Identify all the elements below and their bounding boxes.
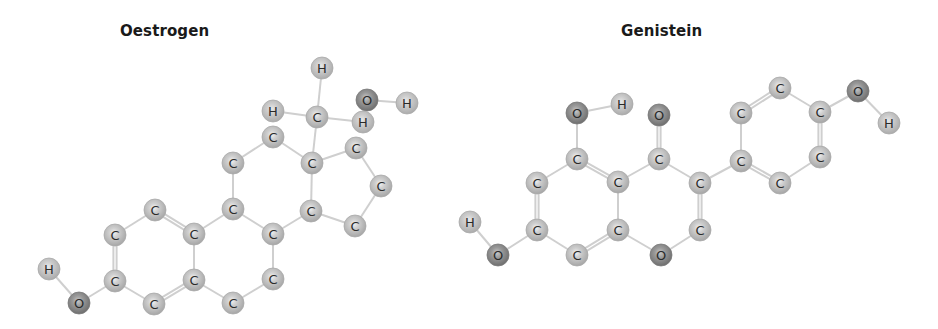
atom-symbol: O — [654, 108, 664, 123]
atom-symbol: H — [465, 215, 475, 230]
atom-symbol: C — [775, 81, 784, 96]
atom-symbol: C — [376, 179, 385, 194]
carbon-atom: C — [104, 270, 126, 292]
carbon-atom: C — [607, 219, 629, 241]
atom-symbol: H — [402, 96, 412, 111]
carbon-atom: C — [144, 199, 166, 221]
hydrogen-atom: H — [459, 211, 481, 233]
oxygen-atom: O — [356, 89, 378, 111]
carbon-atom: C — [648, 148, 670, 170]
atom-symbol: C — [532, 223, 541, 238]
atom-symbol: O — [572, 106, 582, 121]
oxygen-atom: O — [847, 80, 869, 102]
carbon-atom: C — [183, 223, 205, 245]
atom-symbol: O — [656, 248, 666, 263]
atom-symbol: C — [613, 175, 622, 190]
atom-symbol: H — [44, 262, 54, 277]
bonds-layer — [49, 68, 889, 305]
carbon-atom: C — [344, 215, 366, 237]
oxygen-atom: O — [648, 104, 670, 126]
carbon-atom: C — [104, 224, 126, 246]
atom-symbol: C — [189, 227, 198, 242]
carbon-atom: C — [607, 171, 629, 193]
oestrogen-atoms: HHCOHHCCCCCCCCCCCCCCCCCOH — [38, 57, 418, 315]
atom-symbol: H — [268, 104, 278, 119]
carbon-atom: C — [730, 102, 752, 124]
hydrogen-atom: H — [611, 93, 633, 115]
carbon-atom: C — [143, 293, 165, 315]
atom-symbol: C — [268, 227, 277, 242]
oxygen-atom: O — [487, 244, 509, 266]
carbon-atom: C — [222, 292, 244, 314]
atom-symbol: C — [268, 130, 277, 145]
atom-symbol: H — [884, 116, 894, 131]
carbon-atom: C — [809, 101, 831, 123]
hydrogen-atom: H — [311, 57, 333, 79]
carbon-atom: C — [345, 137, 367, 159]
carbon-atom: C — [769, 77, 791, 99]
carbon-atom: C — [222, 152, 244, 174]
carbon-atom: C — [566, 244, 588, 266]
atom-symbol: O — [853, 84, 863, 99]
atom-symbol: H — [317, 61, 327, 76]
atom-symbol: C — [189, 273, 198, 288]
atom-symbol: C — [695, 176, 704, 191]
atom-symbol: C — [815, 105, 824, 120]
hydrogen-atom: H — [38, 258, 60, 280]
hydrogen-atom: H — [396, 92, 418, 114]
atom-symbol: C — [350, 219, 359, 234]
atom-symbol: O — [74, 296, 84, 311]
atom-symbol: C — [572, 248, 581, 263]
atom-symbol: H — [358, 115, 368, 130]
atom-symbol: C — [351, 141, 360, 156]
atom-symbol: C — [654, 152, 663, 167]
atom-symbol: C — [532, 176, 541, 191]
atom-symbol: C — [228, 296, 237, 311]
carbon-atom: C — [769, 172, 791, 194]
atom-symbol: H — [617, 97, 627, 112]
atom-symbol: C — [695, 223, 704, 238]
atom-symbol: C — [736, 154, 745, 169]
atom-symbol: C — [307, 156, 316, 171]
atom-symbol: C — [306, 204, 315, 219]
atom-symbol: C — [149, 297, 158, 312]
carbon-atom: C — [370, 175, 392, 197]
atom-symbol: C — [815, 150, 824, 165]
atom-symbol: C — [228, 156, 237, 171]
atom-symbol: C — [110, 228, 119, 243]
atom-symbol: C — [150, 203, 159, 218]
carbon-atom: C — [300, 200, 322, 222]
atom-symbol: C — [228, 202, 237, 217]
carbon-atom: C — [301, 152, 323, 174]
atom-symbol: O — [362, 93, 372, 108]
carbon-atom: C — [526, 219, 548, 241]
oestrogen-bonds — [49, 68, 407, 305]
carbon-atom: C — [183, 269, 205, 291]
atom-symbol: C — [613, 223, 622, 238]
carbon-atom: C — [689, 172, 711, 194]
carbon-atom: C — [526, 172, 548, 194]
oxygen-atom: O — [68, 292, 90, 314]
carbon-atom: C — [730, 150, 752, 172]
atom-symbol: C — [268, 272, 277, 287]
atom-symbol: C — [775, 176, 784, 191]
atom-symbol: C — [312, 110, 321, 125]
carbon-atom: C — [689, 219, 711, 241]
molecule-diagram: HHCOHHCCCCCCCCCCCCCCCCCOHOHOCCCOHCCCCCCC… — [0, 0, 938, 329]
hydrogen-atom: H — [262, 100, 284, 122]
carbon-atom: C — [262, 223, 284, 245]
atom-symbol: C — [736, 106, 745, 121]
carbon-atom: C — [306, 106, 328, 128]
atom-symbol: C — [110, 274, 119, 289]
carbon-atom: C — [262, 268, 284, 290]
carbon-atom: C — [809, 146, 831, 168]
hydrogen-atom: H — [352, 111, 374, 133]
atom-symbol: C — [572, 152, 581, 167]
carbon-atom: C — [262, 126, 284, 148]
oxygen-atom: O — [650, 244, 672, 266]
oxygen-atom: O — [566, 102, 588, 124]
atom-symbol: O — [493, 248, 503, 263]
hydrogen-atom: H — [878, 112, 900, 134]
carbon-atom: C — [566, 148, 588, 170]
carbon-atom: C — [222, 198, 244, 220]
